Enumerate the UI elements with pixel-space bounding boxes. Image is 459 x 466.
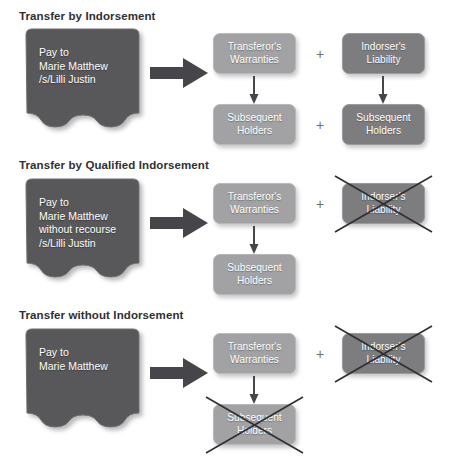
down-arrow-icon (248, 76, 260, 106)
plus-symbol: + (313, 197, 327, 211)
section-title: Transfer by Qualified Indorsement (19, 159, 209, 171)
check-document: Pay to Marie Matthew /s/Lilli Justin (19, 27, 146, 135)
check-line: Pay to (39, 46, 108, 60)
flow-arrow-icon (150, 206, 210, 240)
check-line: Pay to (39, 196, 116, 210)
check-line: Marie Matthew (39, 60, 108, 74)
box-line-1: Subsequent (227, 262, 281, 274)
box-transferors-warranties: Transferor's Warranties (213, 33, 296, 74)
section-title: Transfer by Indorsement (19, 10, 156, 22)
flow-arrow-icon (150, 356, 210, 390)
box-line-1: Subsequent (356, 112, 410, 124)
box-subsequent-holders-right: Subsequent Holders (342, 104, 425, 145)
box-subsequent-holders-left: Subsequent Holders (213, 104, 296, 145)
box-line-2: Liability (361, 54, 405, 66)
check-line: Pay to (39, 346, 108, 360)
section-title: Transfer without Indorsement (19, 309, 183, 321)
box-transferors-warranties: Transferor's Warranties (213, 183, 296, 224)
check-line: without recourse (39, 223, 116, 237)
box-line-1: Indorser's (361, 41, 405, 53)
check-line: /s/Lilli Justin (39, 73, 108, 87)
flow-arrow-icon (150, 56, 210, 90)
down-arrow-icon (248, 226, 260, 256)
box-line-1: Subsequent (227, 112, 281, 124)
check-line: Marie Matthew (39, 360, 108, 374)
box-line-2: Holders (227, 125, 281, 137)
box-line-2: Warranties (228, 354, 282, 366)
box-line-1: Transferor's (228, 41, 282, 53)
section-transfer-by-qualified-indorsement: Transfer by Qualified Indorsement Pay to… (0, 152, 459, 302)
plus-symbol: + (313, 47, 327, 61)
box-line-2: Warranties (228, 204, 282, 216)
check-document: Pay to Marie Matthew (19, 327, 146, 435)
plus-symbol: + (313, 347, 327, 361)
check-document: Pay to Marie Matthew without recourse /s… (19, 177, 146, 285)
check-text: Pay to Marie Matthew without recourse /s… (39, 196, 116, 250)
box-indorsers-liability: Indorser's Liability (342, 33, 425, 74)
section-transfer-by-indorsement: Transfer by Indorsement Pay to Marie Mat… (0, 0, 459, 152)
cross-out-mark-indorsers-liability (333, 174, 434, 234)
box-line-2: Holders (227, 275, 281, 287)
check-line: /s/Lilli Justin (39, 237, 116, 251)
transfer-comparison-diagram: Transfer by Indorsement Pay to Marie Mat… (0, 0, 459, 466)
cross-out-mark-subsequent-holders (204, 395, 305, 455)
box-line-2: Warranties (228, 54, 282, 66)
box-line-2: Holders (356, 125, 410, 137)
plus-symbol: + (313, 118, 327, 132)
down-arrow-icon (377, 76, 389, 106)
box-line-1: Transferor's (228, 341, 282, 353)
box-line-1: Transferor's (228, 191, 282, 203)
check-line: Marie Matthew (39, 210, 116, 224)
box-subsequent-holders-left: Subsequent Holders (213, 254, 296, 295)
check-text: Pay to Marie Matthew /s/Lilli Justin (39, 46, 108, 87)
cross-out-mark-indorsers-liability (333, 324, 434, 384)
check-text: Pay to Marie Matthew (39, 346, 108, 373)
box-transferors-warranties: Transferor's Warranties (213, 333, 296, 374)
section-transfer-without-indorsement: Transfer without Indorsement Pay to Mari… (0, 302, 459, 466)
